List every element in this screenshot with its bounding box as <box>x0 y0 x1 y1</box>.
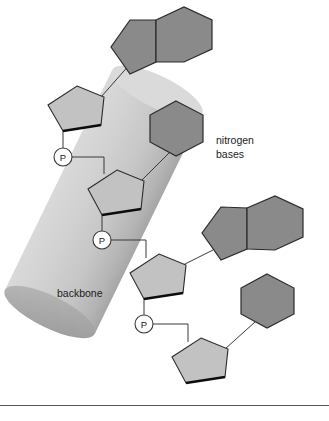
sugar-ring-3-pentagon <box>130 254 186 299</box>
glycosidic-bond-4 <box>225 322 255 349</box>
nitrogen-bases-label-line2: bases <box>216 148 244 160</box>
phosphate-2: P <box>93 231 111 249</box>
figure-root: P P P nitrogen bases backbone <box>0 0 329 421</box>
phosphate-3-label: P <box>141 319 147 330</box>
purine-2-hexagon <box>247 196 303 250</box>
sugar-ring-1-pentagon <box>48 86 104 131</box>
sugar-ring-4-pentagon <box>172 338 228 383</box>
sugar-ring-4 <box>172 338 228 383</box>
phosphate-1: P <box>54 148 72 166</box>
purine-1-pentagon <box>111 20 156 74</box>
nitrogen-base-pyrimidine-2 <box>241 274 294 328</box>
backbone-label: backbone <box>57 287 103 299</box>
phosphate-1-label: P <box>60 152 66 163</box>
purine-1-hexagon <box>156 7 212 62</box>
nitrogen-base-purine-2 <box>202 196 303 260</box>
phosphate-3: P <box>135 315 153 333</box>
nitrogen-bases-label-line1: nitrogen <box>216 134 254 146</box>
sugar-ring-1 <box>48 86 104 131</box>
nitrogen-base-purine-1 <box>111 7 212 74</box>
sugar-ring-3 <box>130 254 186 299</box>
pyrimidine-2-hexagon <box>241 274 294 328</box>
bond-p3-to-sugar4 <box>153 324 188 342</box>
phosphate-2-label: P <box>99 235 105 246</box>
dna-structure-diagram: P P P nitrogen bases backbone <box>0 0 329 421</box>
glycosidic-bond-3 <box>183 250 213 265</box>
